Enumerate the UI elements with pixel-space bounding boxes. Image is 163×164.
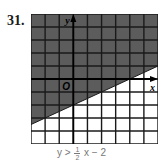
fraction-denominator: 2: [74, 154, 80, 161]
origin-label: O: [62, 81, 70, 92]
fraction: 1 2: [74, 146, 80, 161]
fraction-numerator: 1: [74, 146, 80, 154]
coordinate-graph: yxO: [31, 14, 158, 144]
inequality-caption: y > 1 2 x − 2: [0, 146, 163, 161]
inequality-suffix: x − 2: [84, 147, 106, 158]
graph-canvas: yxO: [31, 14, 158, 144]
y-axis-label: y: [64, 15, 70, 26]
inequality-prefix: y >: [57, 147, 71, 158]
problem-number: 31.: [7, 13, 25, 29]
x-axis-label: x: [149, 82, 155, 93]
